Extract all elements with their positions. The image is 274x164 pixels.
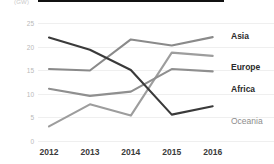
x-tick-2012: 2012 — [40, 147, 59, 157]
x-tick-2013: 2013 — [80, 147, 99, 157]
line-chart: (GW) 0510152025 20122013201420152016 Asi… — [0, 0, 274, 164]
series-label-africa: Africa — [231, 84, 255, 94]
series-label-oceania: Oceania — [231, 116, 263, 126]
x-tick-2014: 2014 — [121, 147, 140, 157]
plot-area — [0, 0, 274, 164]
x-tick-2015: 2015 — [162, 147, 181, 157]
x-tick-2016: 2016 — [203, 147, 222, 157]
series-line-africa — [49, 69, 213, 96]
x-axis-line — [38, 0, 224, 2]
series-line-oceania — [49, 38, 213, 115]
series-label-europe: Europe — [231, 62, 260, 72]
series-label-asia: Asia — [231, 31, 249, 41]
series-line-europe — [49, 53, 213, 127]
